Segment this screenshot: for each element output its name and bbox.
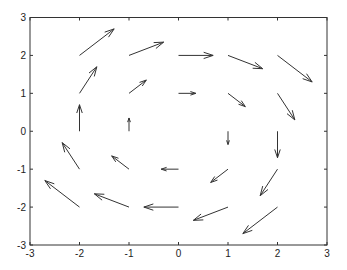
axis-ticks: [30, 18, 327, 246]
x-tick-label: -3: [26, 248, 35, 259]
y-tick-label: 3: [20, 12, 26, 23]
y-tick-label: 0: [20, 126, 26, 137]
x-tick-label: -1: [125, 248, 134, 259]
arrow-icon: [211, 169, 228, 182]
arrow-icon: [227, 131, 230, 144]
arrow-icon: [94, 194, 129, 207]
x-tick-label: 3: [324, 248, 330, 259]
y-tick-label: -2: [17, 202, 26, 213]
arrow-icon: [62, 143, 79, 170]
arrow-icon: [193, 207, 228, 220]
arrow-icon: [80, 67, 97, 94]
arrow-icon: [278, 55, 313, 82]
arrow-icon: [45, 181, 80, 208]
y-tick-labels: -3-2-10123: [17, 12, 26, 251]
y-tick-label: -3: [17, 240, 26, 251]
y-tick-label: -1: [17, 164, 26, 175]
arrow-icon: [179, 52, 214, 58]
y-tick-label: 1: [20, 88, 26, 99]
arrow-icon: [275, 131, 281, 158]
x-tick-label: 0: [176, 248, 182, 259]
arrow-icon: [260, 169, 277, 196]
arrow-icon: [80, 29, 115, 56]
arrow-icon: [112, 156, 129, 169]
arrow-icon: [278, 93, 295, 120]
arrow-icon: [243, 207, 278, 234]
arrow-icon: [228, 55, 263, 68]
arrow-icon: [77, 105, 83, 132]
arrow-icon: [228, 93, 245, 106]
x-tick-label: 2: [275, 248, 281, 259]
arrow-icon: [144, 204, 179, 210]
arrow-icon: [129, 42, 164, 55]
x-tick-label: 1: [225, 248, 231, 259]
y-tick-label: 2: [20, 50, 26, 61]
arrow-icon: [179, 92, 196, 96]
arrow-icon: [129, 80, 146, 93]
x-tick-label: -2: [75, 248, 84, 259]
arrow-icon: [161, 167, 178, 171]
arrow-icon: [128, 118, 131, 131]
x-tick-labels: -3-2-10123: [26, 248, 331, 259]
axes-frame: [30, 18, 327, 246]
quiver-chart: -3-2-10123 -3-2-10123: [0, 0, 347, 270]
vector-arrows: [45, 29, 312, 234]
